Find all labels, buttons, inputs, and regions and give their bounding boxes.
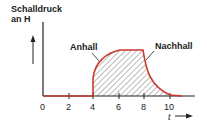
x-axis-label: t bbox=[168, 112, 171, 122]
tick-label-4: 4 bbox=[90, 102, 95, 112]
up-arrow-icon bbox=[31, 35, 36, 64]
tick-label-2: 2 bbox=[66, 102, 71, 112]
tick-label-10: 10 bbox=[164, 102, 174, 112]
right-arrow-icon bbox=[175, 114, 193, 119]
y-axis-label-line1: Schalldruck bbox=[11, 4, 63, 14]
nachhall-label: Nachhall bbox=[155, 41, 193, 51]
nachhall-leader bbox=[146, 51, 154, 60]
anhall-leader bbox=[92, 53, 99, 61]
y-axis-label-line2: an H bbox=[11, 14, 31, 24]
tick-label-8: 8 bbox=[141, 102, 146, 112]
anhall-label: Anhall bbox=[70, 42, 98, 52]
tick-label-0: 0 bbox=[40, 102, 45, 112]
tick-label-6: 6 bbox=[116, 102, 121, 112]
sound-pressure-diagram: Schalldruck an H Anhall Nachhall 0 2 4 6… bbox=[0, 0, 207, 128]
